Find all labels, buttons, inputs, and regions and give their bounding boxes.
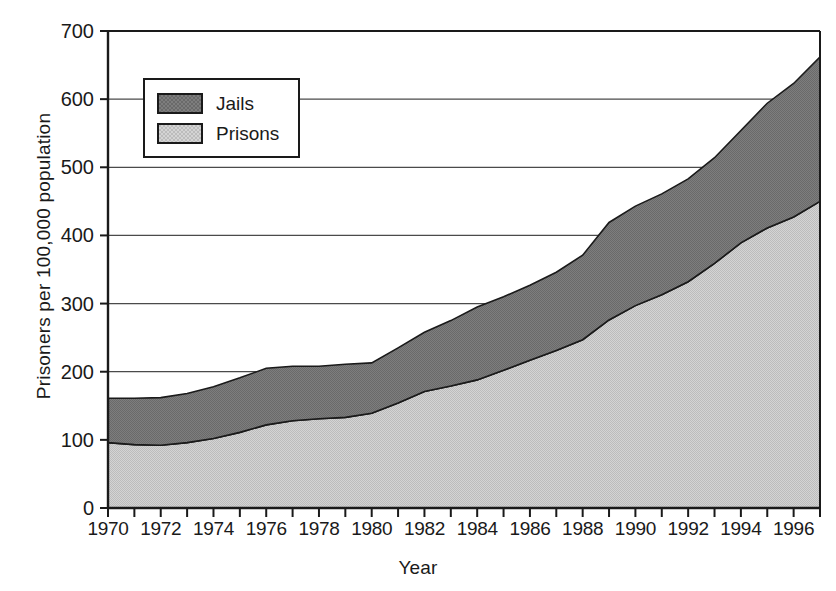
legend-swatch-jails <box>157 93 203 114</box>
chart-legend: Jails Prisons <box>143 78 300 158</box>
x-axis-tick-labels: 1970197219741976197819801982198419861988… <box>0 519 836 549</box>
plot-area <box>0 0 836 591</box>
legend-swatch-prisons <box>157 123 203 144</box>
legend-label-jails: Jails <box>216 94 254 113</box>
x-axis-ticks <box>108 508 820 517</box>
legend-item-jails: Jails <box>157 88 298 118</box>
x-tick-label: 1996 <box>759 519 829 538</box>
legend-label-prisons: Prisons <box>216 124 279 143</box>
chart-figure: Prisoners per 100,000 population 0100200… <box>0 0 836 591</box>
legend-item-prisons: Prisons <box>157 118 298 148</box>
x-axis-title: Year <box>0 557 836 579</box>
